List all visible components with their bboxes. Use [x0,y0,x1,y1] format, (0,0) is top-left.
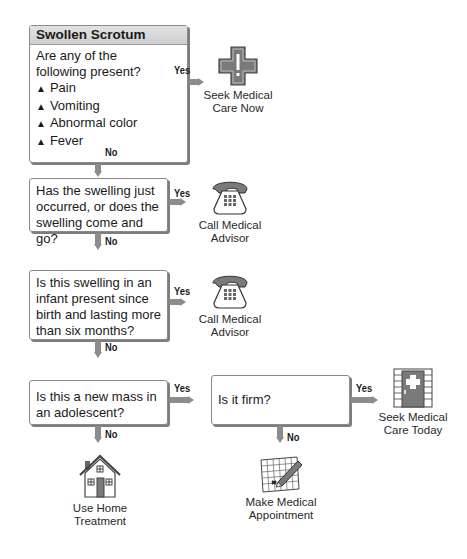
triangle-bullet-icon: ▲ [36,136,46,147]
outcome-make-appointment: Make Medical Appointment [241,455,321,522]
no-arrow [95,426,101,438]
no-arrow [95,341,101,353]
yes-label: Yes [174,64,190,76]
no-label: No [105,428,117,440]
no-label: No [105,235,117,247]
question-box-adolescent-mass: Is this a new mass in an adolescent? [29,380,168,425]
question-box-sudden-swelling: Has the swelling just occurred, or does … [29,178,168,232]
question-box-symptoms: Swollen Scrotum Are any of the following… [29,25,188,163]
outcome-seek-care-now: Seek Medical Care Now [198,46,278,115]
question-line: occurred, or does the [36,199,161,215]
outcome-seek-care-today: Seek Medical Care Today [373,368,453,437]
yes-arrow [351,397,373,403]
no-arrow [95,164,101,172]
question-line: Is this a new mass in [36,389,161,405]
outcome-call-medical-advisor: Call Medical Advisor [190,176,270,245]
yes-label: Yes [356,382,372,394]
symptom-item: ▲Abnormal color [36,115,181,133]
question-line: Is this swelling in an [36,275,161,291]
yes-label: Yes [174,285,190,297]
hospital-door-icon [393,368,433,408]
question-line: than six months? [36,323,161,339]
question-line: infant present since [36,291,161,307]
symptom-list: ▲Pain ▲Vomiting ▲Abnormal color ▲Fever [36,80,181,150]
flowchart-title: Swollen Scrotum [30,26,187,45]
yes-arrow [169,397,189,403]
no-arrow [95,233,101,245]
question-line: Has the swelling just [36,183,161,199]
question-text: Are any of the following present? ▲Pain … [30,45,187,153]
question-line: an adolescent? [36,405,161,421]
yes-label: Yes [174,382,190,394]
question-line: Are any of the [36,48,181,64]
triangle-bullet-icon: ▲ [36,101,46,112]
question-line: birth and lasting more [36,307,161,323]
telephone-icon [210,270,250,310]
no-label: No [287,431,299,443]
house-icon [78,453,122,499]
no-arrow [277,426,283,438]
telephone-icon [210,176,250,216]
question-line: following present? [36,64,181,80]
question-box-firm: Is it firm? [211,375,350,425]
question-line: Is it firm? [218,392,343,408]
triangle-bullet-icon: ▲ [36,83,46,94]
yes-arrow [169,199,181,205]
medical-cross-icon [218,46,258,86]
outcome-use-home-treatment: Use Home Treatment [60,453,140,528]
outcome-call-medical-advisor: Call Medical Advisor [190,270,270,339]
no-label: No [105,146,117,158]
triangle-bullet-icon: ▲ [36,118,46,129]
yes-label: Yes [174,187,190,199]
calendar-pencil-icon [258,455,304,493]
no-label: No [105,341,117,353]
yes-arrow [169,299,181,305]
symptom-item: ▲Vomiting [36,98,181,116]
symptom-item: ▲Pain [36,80,181,98]
question-box-infant-swelling: Is this swelling in an infant present si… [29,270,168,340]
